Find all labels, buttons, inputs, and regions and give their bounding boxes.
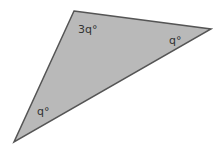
triangle xyxy=(14,11,211,142)
angle-label-bottom-left: q° xyxy=(37,105,49,118)
angle-label-right: q° xyxy=(169,34,181,47)
triangle-diagram: 3q° q° q° xyxy=(0,0,220,157)
angle-label-top: 3q° xyxy=(78,23,97,36)
